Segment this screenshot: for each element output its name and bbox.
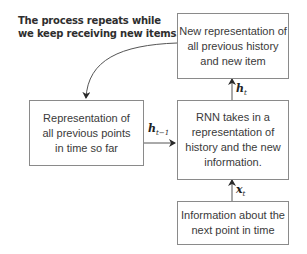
box-text-line: information. — [185, 155, 280, 170]
h-t-minus-1-label: ht−1 — [148, 122, 169, 137]
box-text-line: Information about the — [181, 208, 285, 223]
label-base: h — [148, 122, 156, 135]
label-sub: t−1 — [156, 129, 169, 137]
label-sub: t — [243, 190, 246, 198]
new-representation-box: New representation of all previous histo… — [177, 13, 289, 79]
next-point-box: Information about the next point in time — [177, 201, 289, 245]
annotation-line-1: The process repeats while — [18, 14, 180, 27]
previous-points-box: Representation of all previous points in… — [29, 100, 144, 166]
rnn-box: RNN takes in a representation of history… — [177, 100, 289, 180]
box-text-line: Representation of — [42, 111, 130, 126]
annotation-line-2: we keep receiving new items. — [18, 27, 180, 40]
h-t-label: ht — [236, 82, 247, 97]
feedback-arrow — [86, 43, 177, 98]
box-text-line: history and the new — [185, 140, 280, 155]
label-base: h — [236, 82, 244, 95]
x-t-label: xt — [236, 183, 245, 198]
box-text-line: representation of — [185, 125, 280, 140]
box-text-line: RNN takes in a — [185, 110, 280, 125]
process-repeats-annotation: The process repeats while we keep receiv… — [18, 14, 180, 40]
box-text-line: all previous history — [179, 39, 287, 54]
box-text-line: New representation of — [179, 24, 287, 39]
box-text-line: and new item — [179, 54, 287, 69]
box-text-line: all previous points — [42, 126, 130, 141]
label-sub: t — [244, 89, 247, 97]
box-text-line: in time so far — [42, 141, 130, 156]
box-text-line: next point in time — [181, 223, 285, 238]
